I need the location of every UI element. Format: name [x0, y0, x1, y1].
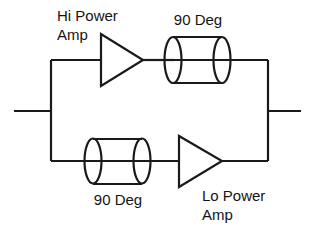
lo-power-amp-symbol — [179, 136, 222, 187]
lo-power-amp-label-line1: Lo Power — [202, 187, 265, 204]
hi-power-amp-label-line2: Amp — [57, 26, 88, 43]
lo-power-amp-label: Lo PowerAmp — [202, 186, 265, 224]
lo-power-amp-label-line2: Amp — [202, 206, 233, 223]
top-90-deg-hybrid-label: 90 Deg — [168, 10, 228, 29]
lo-power-amp-triangle — [179, 136, 222, 187]
hi-power-amp-label: Hi PowerAmp — [57, 6, 118, 44]
wiring-group — [14, 60, 301, 161]
bottom-90-deg-hybrid-label: 90 Deg — [88, 190, 148, 209]
block-diagram-canvas: Hi PowerAmp 90 Deg 90 Deg Lo PowerAmp — [0, 0, 313, 234]
circuit-schematic — [0, 0, 313, 234]
hi-power-amp-label-line1: Hi Power — [57, 7, 118, 24]
